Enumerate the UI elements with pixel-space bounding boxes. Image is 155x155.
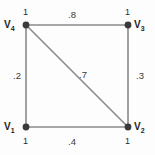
vertex-dot-v2 [125, 124, 132, 131]
edge-weight-top: .8 [68, 10, 76, 20]
graph-canvas [0, 0, 155, 155]
vertex-value-v4: 1 [23, 8, 28, 17]
vertex-label-v1: V1 [4, 122, 15, 134]
vertex-value-v1: 1 [23, 137, 28, 146]
vertex-label-v4: V4 [4, 20, 15, 32]
edge-weight-diagonal: .7 [79, 70, 87, 80]
vertex-dot-v3 [125, 22, 132, 29]
edge-v4-v2-diagonal [26, 25, 128, 127]
edge-weight-bottom: .4 [68, 137, 76, 147]
edge-weight-left: .2 [13, 71, 21, 81]
weighted-graph-figure: V4 V3 V1 V2 1 1 1 1 .8 .2 .3 .4 .7 [0, 0, 155, 155]
vertex-label-v3: V3 [134, 20, 145, 32]
vertex-value-v3: 1 [125, 8, 130, 17]
edge-weight-right: .3 [136, 71, 144, 81]
vertex-dot-v1 [23, 124, 30, 131]
vertex-value-v2: 1 [125, 137, 130, 146]
vertex-label-v2: V2 [134, 122, 145, 134]
vertex-dot-v4 [23, 22, 30, 29]
